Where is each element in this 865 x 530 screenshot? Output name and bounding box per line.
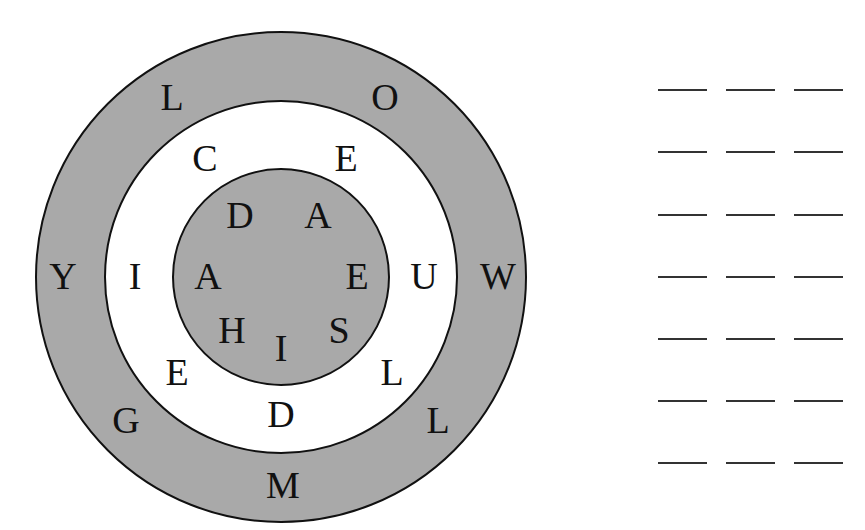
- answer-blank[interactable]: [658, 214, 707, 216]
- answer-blank[interactable]: [658, 462, 707, 464]
- inner-letter: D: [226, 196, 253, 234]
- inner-letter: E: [345, 257, 368, 295]
- answer-blank[interactable]: [658, 338, 707, 340]
- answer-blank[interactable]: [794, 400, 843, 402]
- outer-letter: L: [426, 401, 449, 439]
- answer-blank[interactable]: [658, 151, 707, 153]
- answer-blank[interactable]: [794, 462, 843, 464]
- middle-letter: U: [410, 257, 437, 295]
- outer-letter: O: [371, 78, 398, 116]
- answer-blank[interactable]: [794, 276, 843, 278]
- answer-blank[interactable]: [726, 400, 775, 402]
- middle-letter: C: [192, 139, 217, 177]
- outer-letter: W: [480, 257, 516, 295]
- outer-letter: G: [112, 401, 139, 439]
- answer-blank[interactable]: [794, 89, 843, 91]
- answer-blank[interactable]: [726, 89, 775, 91]
- inner-letter: A: [194, 257, 221, 295]
- middle-letter: E: [165, 353, 188, 391]
- outer-letter: Y: [49, 257, 76, 295]
- answer-blank[interactable]: [726, 462, 775, 464]
- inner-letter: I: [275, 329, 288, 367]
- inner-letter: A: [304, 196, 331, 234]
- middle-letter: I: [129, 257, 142, 295]
- middle-letter: D: [267, 395, 294, 433]
- answer-blank[interactable]: [658, 89, 707, 91]
- answer-blank[interactable]: [794, 214, 843, 216]
- answer-blank[interactable]: [658, 400, 707, 402]
- answer-blank[interactable]: [726, 214, 775, 216]
- inner-letter: S: [328, 311, 349, 349]
- answer-blank[interactable]: [726, 338, 775, 340]
- answer-blank[interactable]: [658, 276, 707, 278]
- outer-letter: M: [266, 466, 300, 504]
- middle-letter: E: [334, 139, 357, 177]
- answer-blank[interactable]: [794, 338, 843, 340]
- answer-blank[interactable]: [726, 151, 775, 153]
- answer-blank[interactable]: [726, 276, 775, 278]
- circle-word-puzzle: LOYWGLMCEIUELDDAAEHIS: [0, 0, 560, 530]
- outer-letter: L: [160, 78, 183, 116]
- inner-letter: H: [218, 311, 245, 349]
- answer-blank[interactable]: [794, 151, 843, 153]
- middle-letter: L: [380, 353, 403, 391]
